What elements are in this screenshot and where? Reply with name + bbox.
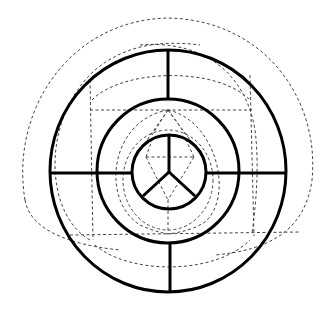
inner-triangle-right (168, 157, 194, 200)
left-vertical-guide (90, 80, 93, 240)
upper-band-dashed-arc (92, 76, 250, 100)
concentric-ring-diagram (0, 0, 334, 309)
left-dashed-arc (55, 43, 200, 240)
y-spoke-lower-left (143, 172, 169, 196)
lower-horizontal-guide (70, 232, 300, 235)
right-vertical-guide (250, 75, 254, 236)
inner-triangle-left (146, 157, 168, 200)
